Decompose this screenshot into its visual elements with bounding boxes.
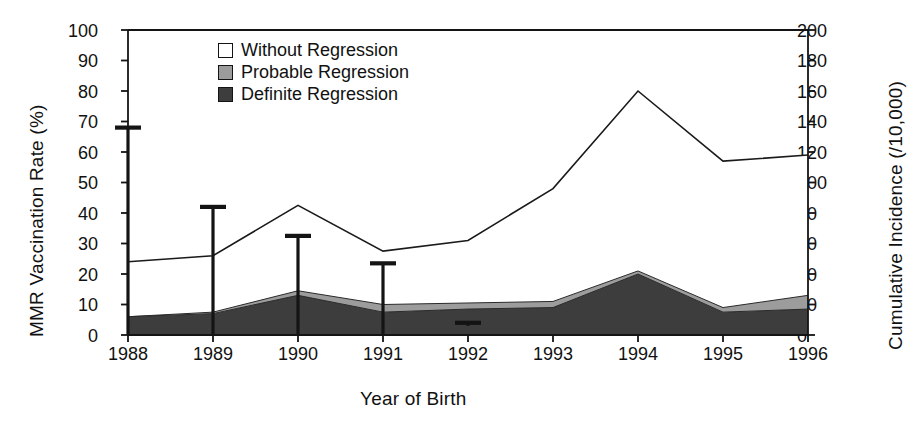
legend-item-definite-regression: Definite Regression: [218, 84, 409, 105]
stacked-area-bands: [128, 91, 808, 335]
legend-label-without-regression: Without Regression: [241, 40, 398, 61]
chart-figure: MMR Vaccination Rate (%) Cumulative Inci…: [0, 0, 909, 423]
legend-swatch-without-regression: [218, 43, 233, 58]
legend-swatch-definite-regression: [218, 87, 233, 102]
chart-legend: Without Regression Probable Regression D…: [218, 40, 409, 106]
plot-area: [0, 0, 909, 423]
legend-label-definite-regression: Definite Regression: [241, 84, 398, 105]
legend-item-without-regression: Without Regression: [218, 40, 409, 61]
legend-item-probable-regression: Probable Regression: [218, 62, 409, 83]
legend-swatch-probable-regression: [218, 65, 233, 80]
band-without-regression: [128, 91, 808, 317]
legend-label-probable-regression: Probable Regression: [241, 62, 409, 83]
